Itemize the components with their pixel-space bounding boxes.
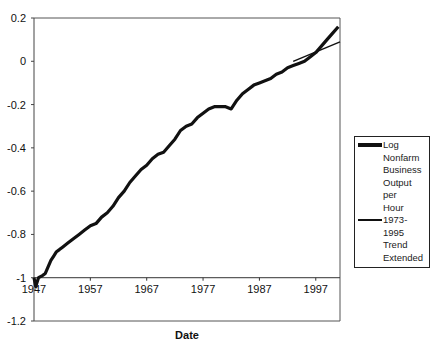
x-tick-label: 1997 bbox=[304, 283, 328, 295]
x-axis-title: Date bbox=[175, 329, 199, 341]
legend-label: Log Nonfarm Business Output per Hour bbox=[383, 139, 427, 214]
y-tick-label: -0.8 bbox=[7, 228, 26, 240]
legend-label: 1973-1995 Trend Extended bbox=[383, 214, 427, 264]
legend-item-output: Log Nonfarm Business Output per Hour bbox=[357, 139, 427, 214]
y-tick-label: -1.2 bbox=[7, 315, 26, 327]
legend-item-trend: 1973-1995 Trend Extended bbox=[357, 214, 427, 264]
y-tick-label: 0.2 bbox=[11, 12, 26, 24]
x-tick-label: 1967 bbox=[134, 283, 158, 295]
x-tick-label: 1977 bbox=[191, 283, 215, 295]
y-tick-label: -0.6 bbox=[7, 185, 26, 197]
legend: Log Nonfarm Business Output per Hour 197… bbox=[354, 136, 430, 268]
output-series-line bbox=[34, 27, 338, 287]
x-tick-label: 1987 bbox=[247, 283, 271, 295]
y-tick-label: 0 bbox=[20, 55, 26, 67]
y-tick-label: -0.2 bbox=[7, 99, 26, 111]
plot-area bbox=[34, 18, 340, 321]
y-axis: 0.20-0.2-0.4-0.6-0.8-1-1.2 bbox=[7, 12, 34, 327]
trend-series-line bbox=[293, 42, 340, 62]
thin-line-swatch-icon bbox=[357, 214, 383, 227]
thick-line-swatch-icon bbox=[357, 139, 383, 152]
series-layer bbox=[34, 27, 340, 287]
x-tick-label: 1957 bbox=[78, 283, 102, 295]
y-tick-label: -0.4 bbox=[7, 142, 26, 154]
x-axis: 194719571967197719871997 bbox=[22, 278, 340, 295]
